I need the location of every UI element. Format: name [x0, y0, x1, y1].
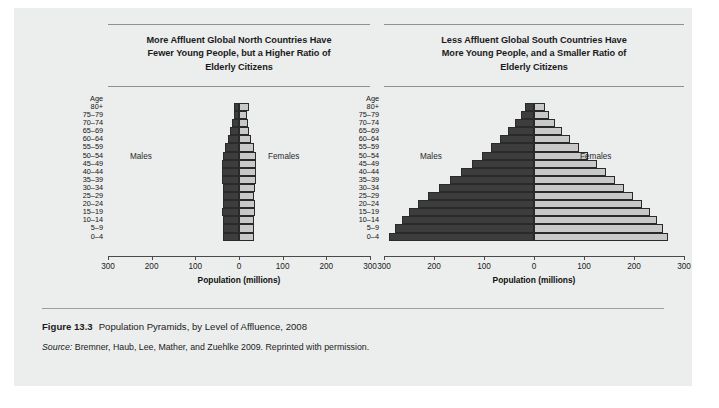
- bar-male: [223, 184, 239, 192]
- pyramid-row: [108, 233, 370, 241]
- pyramid-row: [384, 224, 684, 232]
- bar-female: [239, 119, 248, 127]
- bar-male: [508, 127, 534, 135]
- pyramid-row: [384, 143, 684, 151]
- panel-title-line-2: More Young People, and a Smaller Ratio o…: [384, 47, 684, 60]
- x-axis-tick-label: 200: [427, 262, 441, 271]
- panel-rule-top-left: [108, 24, 370, 25]
- bar-male: [223, 192, 239, 200]
- bar-female: [239, 127, 249, 135]
- x-axis-title-left: Population (millions): [108, 275, 370, 285]
- x-axis-tick-label: 300: [377, 262, 391, 271]
- bar-female: [534, 168, 606, 176]
- pyramid-row: [384, 119, 684, 127]
- x-axis-tick-label: 100: [188, 262, 202, 271]
- x-axis-tick: [634, 256, 635, 260]
- x-axis-title-right: Population (millions): [384, 275, 684, 285]
- panel-global-north: More Affluent Global North Countries Hav…: [108, 24, 370, 292]
- bar-male: [223, 233, 239, 241]
- figure-number: Figure 13.3: [42, 321, 93, 332]
- pyramid-row: [108, 224, 370, 232]
- bar-female: [534, 143, 579, 151]
- bar-male: [491, 143, 534, 151]
- source-text: Bremner, Haub, Lee, Mather, and Zuehlke …: [75, 342, 369, 352]
- bar-female: [534, 216, 657, 224]
- pyramid-row: [384, 168, 684, 176]
- bar-male: [222, 208, 239, 216]
- bar-female: [239, 160, 256, 168]
- pyramid-row: [108, 208, 370, 216]
- bar-male: [402, 216, 535, 224]
- pyramid-row: [384, 184, 684, 192]
- bar-male: [525, 103, 534, 111]
- bar-male: [428, 192, 534, 200]
- panel-rule-bottom-left: [108, 86, 370, 87]
- age-group-label: 0–4: [66, 233, 106, 241]
- bar-male: [232, 119, 239, 127]
- bar-female: [239, 233, 254, 241]
- bar-male: [500, 135, 534, 143]
- pyramid-row: [384, 135, 684, 143]
- x-axis-tick: [108, 256, 109, 260]
- pyramid-row: [384, 111, 684, 119]
- x-axis-global-north: 3002001000100200300 Population (millions…: [108, 256, 370, 294]
- x-axis-tick-label: 300: [101, 262, 115, 271]
- bar-female: [239, 216, 254, 224]
- bar-male: [472, 160, 535, 168]
- pyramid-row: [108, 143, 370, 151]
- bar-female: [239, 103, 249, 111]
- bar-male: [461, 168, 534, 176]
- pyramid-row: [384, 200, 684, 208]
- caption-title-line: Figure 13.3Population Pyramids, by Level…: [42, 320, 662, 334]
- pyramid-row: [108, 119, 370, 127]
- panel-title-line-1: More Affluent Global North Countries Hav…: [108, 34, 370, 47]
- caption-source-line: Source: Bremner, Haub, Lee, Mather, and …: [42, 341, 662, 354]
- bar-female: [534, 127, 562, 135]
- bar-female: [534, 192, 633, 200]
- bar-male: [418, 200, 534, 208]
- bar-female: [239, 200, 255, 208]
- pyramid-row: [384, 216, 684, 224]
- x-axis-tick: [684, 256, 685, 260]
- x-axis-tick-label: 100: [276, 262, 290, 271]
- x-axis-tick: [370, 256, 371, 260]
- panel-title-global-north: More Affluent Global North Countries Hav…: [108, 34, 370, 74]
- pyramid-row: [384, 176, 684, 184]
- x-axis-tick: [195, 256, 196, 260]
- x-axis-tick: [484, 256, 485, 260]
- x-axis-tick-label: 0: [237, 262, 242, 271]
- bar-male: [222, 168, 239, 176]
- males-label-right: Males: [420, 152, 442, 161]
- age-axis-right: Age 80+75–7970–7465–6960–6455–5950–5445–…: [342, 94, 382, 241]
- bar-male: [450, 176, 534, 184]
- x-axis-tick: [584, 256, 585, 260]
- bar-male: [395, 224, 534, 232]
- bar-female: [534, 119, 555, 127]
- bar-male: [222, 160, 239, 168]
- x-axis-tick-label: 200: [319, 262, 333, 271]
- x-axis-tick: [152, 256, 153, 260]
- source-label: Source:: [42, 342, 72, 352]
- bar-male: [389, 233, 534, 241]
- panel-title-line-3: Elderly Citizens: [108, 61, 370, 74]
- bar-female: [239, 184, 255, 192]
- x-axis-tick-label: 0: [532, 262, 537, 271]
- bar-male: [439, 184, 534, 192]
- bar-female: [534, 208, 650, 216]
- bar-male: [223, 224, 239, 232]
- bar-male: [228, 135, 239, 143]
- x-axis-tick-label: 100: [577, 262, 591, 271]
- bar-female: [534, 135, 570, 143]
- pyramid-row: [384, 103, 684, 111]
- x-axis-tick: [434, 256, 435, 260]
- figure-title: Population Pyramids, by Level of Affluen…: [99, 321, 307, 332]
- panel-title-line-2: Fewer Young People, but a Higher Ratio o…: [108, 47, 370, 60]
- pyramid-row: [384, 192, 684, 200]
- bar-female: [239, 152, 256, 160]
- x-axis-global-south: 3002001000100200300 Population (millions…: [384, 256, 684, 294]
- bar-male: [482, 152, 535, 160]
- bar-female: [534, 224, 663, 232]
- bar-female: [239, 224, 254, 232]
- bar-female: [239, 168, 256, 176]
- pyramid-row: [108, 200, 370, 208]
